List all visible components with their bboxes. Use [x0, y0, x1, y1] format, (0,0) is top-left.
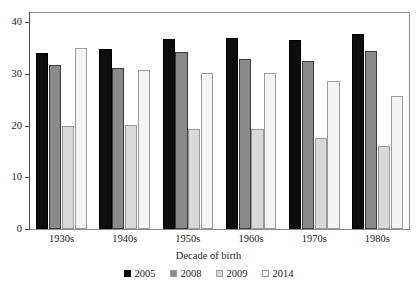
- bar-2014-1960s: [264, 73, 276, 229]
- x-axis-tick-label: 1980s: [346, 233, 409, 245]
- y-axis-tick: [25, 177, 29, 178]
- bar-2009-1950s: [188, 129, 200, 229]
- legend-label: 2008: [181, 268, 202, 279]
- bar-2014-1980s: [391, 96, 403, 229]
- bar-2008-1980s: [365, 51, 377, 229]
- bars-area: [30, 12, 409, 229]
- bar-2008-1950s: [175, 52, 187, 229]
- y-axis-tick-label: 20: [0, 120, 22, 131]
- bar-group: [163, 12, 214, 229]
- x-axis-title: Decade of birth: [0, 250, 417, 261]
- y-axis-tick: [25, 126, 29, 127]
- y-axis-tick-label: 40: [0, 16, 22, 27]
- y-axis-tick-label: 0: [0, 223, 22, 234]
- y-axis-tick-label: 10: [0, 171, 22, 182]
- bar-2005-1940s: [99, 49, 111, 229]
- bar-2014-1930s: [75, 48, 87, 229]
- legend-item-2014[interactable]: 2014: [262, 268, 294, 279]
- bar-group: [289, 12, 340, 229]
- bar-2005-1980s: [352, 34, 364, 229]
- bar-2009-1960s: [251, 129, 263, 229]
- x-axis-tick-label: 1950s: [156, 233, 219, 245]
- y-axis-tick-label: 30: [0, 68, 22, 79]
- bar-2005-1960s: [226, 38, 238, 229]
- bar-group: [36, 12, 87, 229]
- bar-2014-1950s: [201, 73, 213, 229]
- legend-swatch-icon: [262, 270, 269, 277]
- y-axis-tick: [25, 229, 29, 230]
- legend-swatch-icon: [170, 270, 177, 277]
- x-axis-tick-label: 1930s: [30, 233, 93, 245]
- y-axis-tick: [25, 74, 29, 75]
- legend-item-2005[interactable]: 2005: [124, 268, 156, 279]
- legend-item-2009[interactable]: 2009: [216, 268, 248, 279]
- x-axis-tick-label: 1940s: [93, 233, 156, 245]
- bar-group: [352, 12, 403, 229]
- x-axis-tick-label: 1960s: [220, 233, 283, 245]
- bar-2008-1960s: [239, 59, 251, 230]
- bar-group: [226, 12, 277, 229]
- legend-item-2008[interactable]: 2008: [170, 268, 202, 279]
- legend-label: 2009: [227, 268, 248, 279]
- bar-2014-1970s: [327, 81, 339, 229]
- bar-2009-1970s: [315, 138, 327, 229]
- legend-label: 2005: [135, 268, 156, 279]
- bar-2009-1980s: [378, 146, 390, 229]
- chart-legend: 2005200820092014: [0, 268, 417, 279]
- bar-2005-1950s: [163, 39, 175, 229]
- legend-label: 2014: [273, 268, 294, 279]
- bar-2008-1940s: [112, 68, 124, 229]
- bar-2014-1940s: [138, 70, 150, 229]
- bar-group: [99, 12, 150, 229]
- bar-2005-1930s: [36, 53, 48, 229]
- bar-2009-1940s: [125, 125, 137, 229]
- bar-2008-1970s: [302, 61, 314, 229]
- bar-2005-1970s: [289, 40, 301, 229]
- bar-chart: 010203040 1930s1940s1950s1960s1970s1980s…: [0, 0, 417, 291]
- y-axis-tick-labels: 010203040: [0, 0, 24, 291]
- bar-2008-1930s: [49, 65, 61, 229]
- legend-swatch-icon: [124, 270, 131, 277]
- bar-2009-1930s: [62, 126, 74, 229]
- legend-swatch-icon: [216, 270, 223, 277]
- x-axis-tick-label: 1970s: [283, 233, 346, 245]
- y-axis-tick: [25, 22, 29, 23]
